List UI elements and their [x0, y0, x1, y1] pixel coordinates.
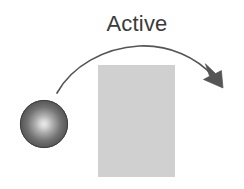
caption-active-label: Active [102, 12, 172, 36]
figure-canvas: Active [0, 0, 244, 189]
curved-arrow-head [204, 64, 224, 88]
gray-rectangle [98, 65, 175, 177]
